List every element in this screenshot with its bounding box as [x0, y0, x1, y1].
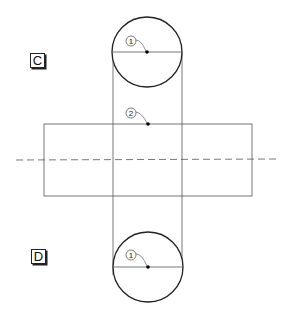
- callout-2-leader: [136, 112, 147, 123]
- cylinder-net-diagram: 1 2 1: [0, 0, 283, 324]
- callout-1-bottom-text: 1: [129, 251, 134, 260]
- label-c: C: [30, 53, 45, 68]
- callout-1-top-text: 1: [129, 37, 134, 46]
- dashed-axis-line: [16, 159, 278, 160]
- callout-2-text: 2: [129, 109, 134, 118]
- label-d: D: [31, 249, 46, 264]
